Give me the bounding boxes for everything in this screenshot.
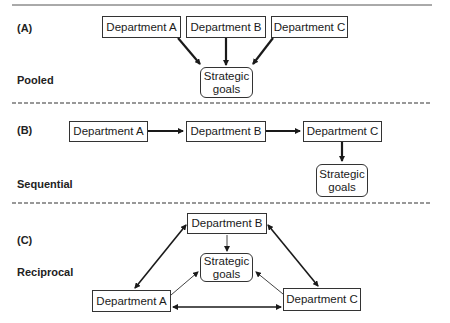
sequential-department-a: Department A — [69, 121, 148, 142]
section-a-letter: (A) — [17, 22, 32, 34]
section-b-name: Sequential — [17, 178, 73, 190]
section-c-name: Reciprocal — [17, 266, 73, 278]
reciprocal-strategic-goals: Strategic goals — [200, 253, 253, 282]
pooled-department-c: Department C — [271, 16, 348, 38]
sequential-department-c: Department C — [303, 121, 382, 142]
sequential-strategic-goals: Strategic goals — [316, 164, 368, 197]
section-b-letter: (B) — [17, 124, 32, 136]
reciprocal-department-c: Department C — [283, 288, 361, 311]
section-c-letter: (C) — [17, 234, 32, 246]
pooled-strategic-goals: Strategic goals — [200, 67, 253, 98]
pooled-department-a: Department A — [102, 16, 181, 38]
sequential-department-b: Department B — [186, 121, 266, 142]
pooled-department-b: Department B — [186, 16, 266, 38]
section-a-name: Pooled — [17, 74, 54, 86]
reciprocal-department-a: Department A — [92, 290, 171, 312]
reciprocal-department-b: Department B — [187, 213, 267, 234]
